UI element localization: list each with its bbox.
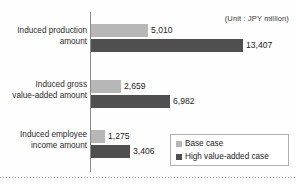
bottom-dotted-divider [0, 177, 296, 178]
legend-item-base-case: Base case [176, 138, 288, 150]
legend-item-high-value-added-case: High value-added case [176, 151, 288, 163]
bar-value-label: 3,406 [133, 146, 155, 157]
bar-base-case [91, 24, 148, 37]
bar-chart: (Unit : JPY million) Induced production … [0, 0, 296, 184]
bar-high-value-added-case [91, 39, 243, 52]
bar-high-value-added-case [91, 145, 130, 158]
category-label: Induced employee income amount [0, 130, 87, 151]
legend-swatch-icon [176, 141, 182, 147]
category-label: Induced production amount [0, 26, 87, 47]
bar-value-label: 2,659 [124, 81, 146, 92]
unit-annotation: (Unit : JPY million) [225, 14, 289, 23]
bar-base-case [91, 80, 121, 93]
bar-high-value-added-case [91, 95, 170, 108]
bar-value-label: 1,275 [108, 131, 130, 142]
legend-label: High value-added case [185, 152, 269, 162]
bar-value-label: 5,010 [151, 25, 173, 36]
category-label: Induced gross value-added amount [0, 80, 87, 101]
bar-base-case [91, 130, 105, 143]
bar-value-label: 6,982 [173, 96, 195, 107]
legend-swatch-icon [176, 154, 182, 160]
bar-value-label: 13,407 [246, 40, 272, 51]
chart-legend: Base case High value-added case [170, 134, 289, 166]
legend-label: Base case [185, 139, 223, 149]
